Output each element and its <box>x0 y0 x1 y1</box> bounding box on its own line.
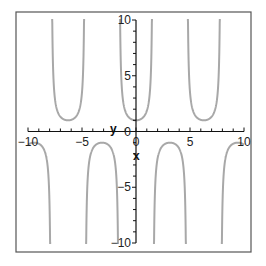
x-tick-label: −10 <box>18 135 39 149</box>
x-tick-label: 5 <box>187 135 194 149</box>
sec-branch-down <box>85 143 119 243</box>
y-tick-label: −10 <box>111 236 132 250</box>
x-tick-label: −5 <box>75 135 89 149</box>
x-axis-name: x <box>133 149 140 163</box>
sec-branch-down <box>28 143 51 243</box>
ticks-group <box>28 20 244 243</box>
sec-branch-down <box>153 143 187 243</box>
x-tick-label: 10 <box>237 135 251 149</box>
sec-branch-up <box>187 20 221 120</box>
y-tick-label: 0 <box>124 125 131 139</box>
y-tick-label: 10 <box>118 13 132 27</box>
sec-branch-down <box>221 143 244 243</box>
x-tick-label: 0 <box>133 135 140 149</box>
sec-plot: x y −10−50510−10−50510 <box>0 0 266 266</box>
y-tick-label: 5 <box>124 69 131 83</box>
y-axis-name: y <box>110 122 117 136</box>
sec-branch-up <box>51 20 85 120</box>
y-tick-label: −5 <box>117 180 131 194</box>
